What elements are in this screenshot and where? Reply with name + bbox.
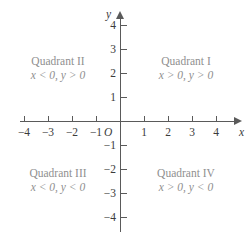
y-tick [121,217,127,218]
x-tick-label: 3 [182,127,202,139]
x-tick [144,116,145,122]
quadrant-1-annotation: Quadrant I x > 0, y > 0 [138,54,234,82]
x-tick-label: 1 [134,127,154,139]
x-tick-label: −3 [38,127,58,139]
y-tick-label: −1 [96,140,116,152]
x-tick-label: −1 [86,127,106,139]
x-tick [168,116,169,122]
y-axis-arrowhead [116,11,124,19]
x-tick-label: −2 [62,127,82,139]
y-tick-label: −4 [96,212,116,224]
y-tick [121,25,127,26]
y-tick [121,145,127,146]
y-axis-line [120,18,121,232]
quadrant-1-title: Quadrant I [138,54,234,68]
quadrant-1-condition: x > 0, y > 0 [138,68,234,82]
y-tick [121,193,127,194]
quadrant-2-title: Quadrant II [10,54,106,68]
quadrant-3-condition: x < 0, y < 0 [10,180,106,194]
quadrant-2-annotation: Quadrant II x < 0, y > 0 [10,54,106,82]
x-tick [96,116,97,122]
y-tick-label: 1 [96,92,116,104]
quadrant-4-annotation: Quadrant IV x > 0, y < 0 [138,166,234,194]
y-tick [121,169,127,170]
y-tick-label: 4 [96,20,116,32]
x-tick-label: 4 [206,127,226,139]
y-axis-label: y [106,8,111,20]
y-tick [121,49,127,50]
x-tick [24,116,25,122]
x-tick [48,116,49,122]
x-axis-line [20,121,236,122]
x-tick-label: 2 [158,127,178,139]
x-tick [192,116,193,122]
x-tick-label: −4 [14,127,34,139]
coordinate-plane-figure: −4−3−2−112344321−1−2−3−4 O x y Quadrant … [0,0,251,241]
quadrant-2-condition: x < 0, y > 0 [10,68,106,82]
y-tick [121,97,127,98]
quadrant-4-condition: x > 0, y < 0 [138,180,234,194]
x-axis-label: x [239,126,244,138]
quadrant-3-title: Quadrant III [10,166,106,180]
y-tick [121,73,127,74]
x-axis-arrowhead [234,117,242,125]
x-tick [72,116,73,122]
quadrant-4-title: Quadrant IV [138,166,234,180]
x-tick [216,116,217,122]
quadrant-3-annotation: Quadrant III x < 0, y < 0 [10,166,106,194]
origin-label: O [104,126,112,138]
